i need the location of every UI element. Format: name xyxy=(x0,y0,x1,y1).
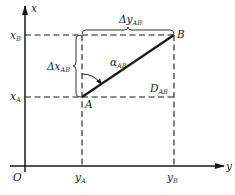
delta-x-brace xyxy=(73,35,81,97)
azimuth-arc xyxy=(82,74,101,84)
diagram-canvas: x y O xB xA yA yB A B ΔxAB ΔyAB αAB DAB xyxy=(0,0,235,195)
yA-label: yA xyxy=(74,171,86,185)
azimuth-label: αAB xyxy=(110,56,127,70)
yB-label: yB xyxy=(166,171,178,185)
xB-label: xB xyxy=(10,29,21,43)
vertical-axis-label: x xyxy=(31,2,37,14)
dashed-guides xyxy=(25,35,174,166)
xA-label: xA xyxy=(10,90,21,104)
origin-label: O xyxy=(13,171,22,183)
delta-x-label: ΔxAB xyxy=(46,60,70,74)
delta-y-brace xyxy=(82,27,174,34)
horizontal-axis-label: y xyxy=(225,160,233,172)
point-a-label: A xyxy=(84,98,93,110)
point-b-label: B xyxy=(176,28,185,40)
distance-label: DAB xyxy=(149,82,168,96)
delta-y-label: ΔyAB xyxy=(118,13,142,27)
